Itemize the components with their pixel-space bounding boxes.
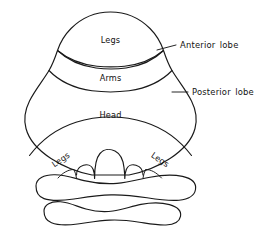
label-posterior-legs-left: Legs bbox=[50, 150, 72, 169]
label-anterior-legs: Legs bbox=[101, 35, 121, 45]
flocculus-lower bbox=[44, 202, 181, 225]
label-posterior-legs-right: Legs bbox=[149, 150, 171, 169]
callout-posterior-lobe-label: Posterior lobe bbox=[192, 87, 254, 97]
legs-arms-fissure bbox=[58, 51, 164, 67]
callout-anterior-lobe-label: Anterior lobe bbox=[180, 40, 239, 50]
label-anterior-arms: Arms bbox=[100, 73, 122, 83]
label-posterior-head: Head bbox=[99, 110, 121, 120]
cerebellum-diagram: Legs Arms Head Legs Legs Anterior lobe P… bbox=[0, 0, 264, 232]
flocculus-upper bbox=[36, 175, 196, 201]
anterior-lobe-leader-line bbox=[157, 45, 176, 50]
cerebellum-illustration: Legs Arms Head Legs Legs Anterior lobe P… bbox=[0, 0, 264, 232]
